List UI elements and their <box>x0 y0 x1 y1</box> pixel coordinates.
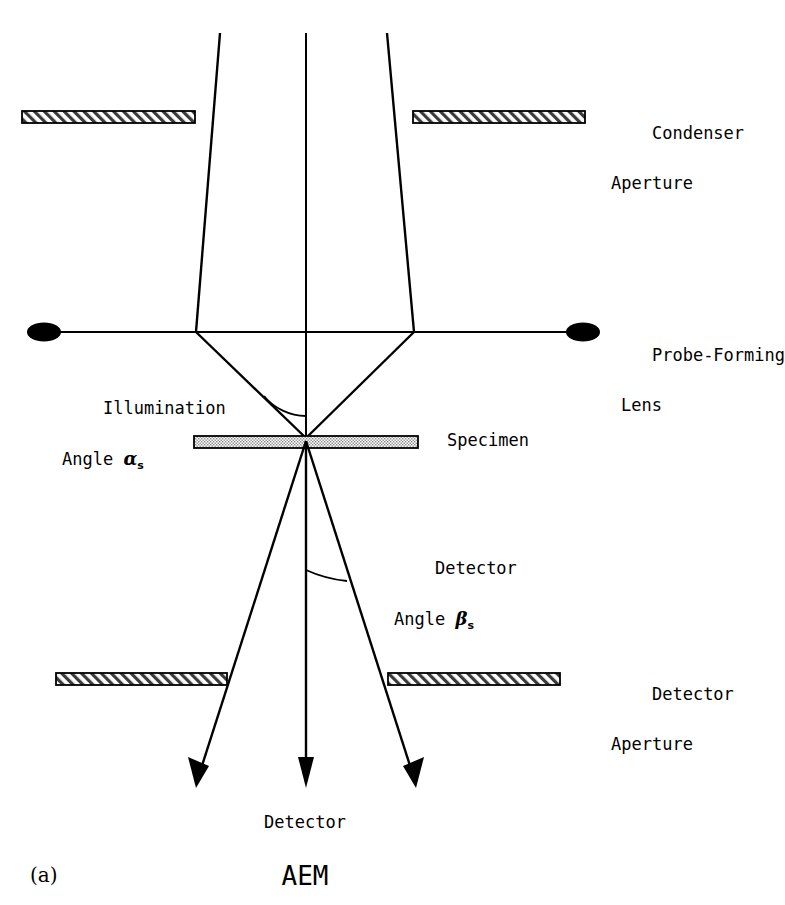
condenser-aperture-line1: Condenser <box>652 123 744 143</box>
alpha-glyph: α <box>123 448 137 469</box>
condenser-aperture-line2: Aperture <box>611 171 744 196</box>
beta-symbol: βs <box>455 608 474 629</box>
illumination-angle-line1: Illumination <box>103 398 226 418</box>
illumination-angle-line2: Angle αs <box>62 446 226 474</box>
panel-identifier: (a) <box>30 862 58 888</box>
label-condenser-aperture: Condenser Aperture <box>611 96 744 246</box>
label-probe-forming-lens: Probe-Forming Lens <box>611 318 785 468</box>
detector-angle-arc <box>306 570 347 581</box>
alpha-subscript: s <box>137 459 144 472</box>
detector-aperture-bar-left <box>56 673 227 685</box>
condenser-aperture-bar-right <box>413 111 585 123</box>
detector-aperture-line2: Aperture <box>611 732 734 757</box>
probe-forming-lens-line1: Probe-Forming <box>652 345 785 365</box>
illumination-angle-word: Angle <box>62 449 123 469</box>
detector-aperture-line1: Detector <box>652 684 734 704</box>
ray-illumination-left <box>196 33 220 332</box>
illumination-angle-arc <box>264 396 306 416</box>
arrowhead-left <box>188 757 209 788</box>
probe-forming-lens-marker-right <box>566 323 600 342</box>
alpha-symbol: αs <box>123 448 143 469</box>
ray-illumination-right <box>387 33 414 332</box>
probe-forming-lens-line2: Lens <box>611 393 785 418</box>
label-detector: Detector <box>0 810 610 835</box>
ray-converging-right <box>305 332 414 439</box>
figure-caption: AEM <box>0 860 610 892</box>
label-specimen: Specimen <box>447 428 529 453</box>
arrowhead-right <box>403 757 424 788</box>
probe-forming-lens-marker-left <box>27 323 61 342</box>
detector-angle-line1: Detector <box>435 558 517 578</box>
label-illumination-angle: Illumination Angle αs <box>62 371 226 524</box>
arrowhead-center <box>298 757 314 788</box>
label-detector-aperture: Detector Aperture <box>611 657 734 807</box>
detector-angle-word: Angle <box>394 609 455 629</box>
detector-angle-line2: Angle βs <box>394 606 517 634</box>
beta-subscript: s <box>467 619 474 632</box>
condenser-aperture-bar-left <box>22 111 195 123</box>
label-detector-angle: Detector Angle βs <box>394 531 517 684</box>
beta-glyph: β <box>455 608 467 629</box>
